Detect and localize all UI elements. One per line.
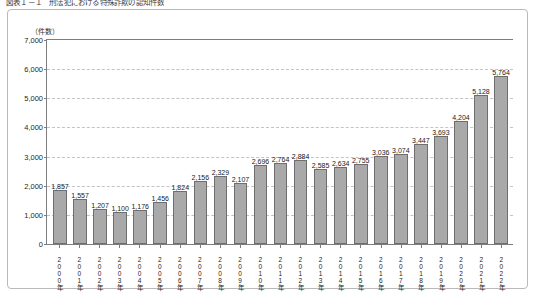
bar-series: 1,8571,5571,2071,1001,1761,4561,8242,156… bbox=[47, 40, 513, 244]
bar[interactable]: 1,857 bbox=[53, 190, 67, 244]
x-axis-tickmark bbox=[350, 245, 370, 249]
bar-slot: 1,207 bbox=[90, 40, 110, 244]
bar[interactable]: 2,107 bbox=[234, 183, 248, 244]
bar[interactable]: 1,207 bbox=[93, 209, 107, 244]
x-axis-tick-label: 2022年 bbox=[497, 250, 504, 296]
bar-value-label: 1,176 bbox=[131, 203, 149, 210]
bar[interactable]: 2,755 bbox=[354, 164, 368, 244]
bar[interactable]: 2,156 bbox=[194, 181, 208, 244]
y-axis-tick-label: 3,000 bbox=[24, 152, 43, 161]
bar-value-label: 2,585 bbox=[312, 162, 330, 169]
x-axis-label-slot: 2007年 bbox=[190, 250, 210, 296]
bar[interactable]: 2,634 bbox=[334, 167, 348, 244]
x-axis-label-slot: 2015年 bbox=[350, 250, 370, 296]
x-axis-tickmarks bbox=[46, 245, 513, 249]
x-axis-label-slot: 2011年 bbox=[270, 250, 290, 296]
bar-slot: 5,128 bbox=[471, 40, 491, 244]
bar-slot: 2,696 bbox=[250, 40, 270, 244]
bar-value-label: 1,207 bbox=[91, 202, 109, 209]
x-axis-tick-label: 2007年 bbox=[196, 250, 203, 296]
x-axis-tick-label: 2020年 bbox=[457, 250, 464, 296]
x-axis-tickmark bbox=[391, 245, 411, 249]
bar-slot: 2,755 bbox=[351, 40, 371, 244]
x-axis-tickmark bbox=[230, 245, 250, 249]
bar[interactable]: 5,128 bbox=[474, 95, 488, 244]
bar[interactable]: 1,100 bbox=[113, 212, 127, 244]
x-axis-label-slot: 2014年 bbox=[330, 250, 350, 296]
bar-value-label: 3,693 bbox=[432, 129, 450, 136]
bar-slot: 2,884 bbox=[291, 40, 311, 244]
x-axis-label-slot: 2012年 bbox=[290, 250, 310, 296]
bar[interactable]: 2,329 bbox=[214, 176, 228, 244]
x-axis-tick-label: 2003年 bbox=[116, 250, 123, 296]
x-axis-tick-label: 2019年 bbox=[437, 250, 444, 296]
x-axis-tickmark bbox=[250, 245, 270, 249]
bar[interactable]: 1,557 bbox=[73, 199, 87, 244]
bar-value-label: 3,036 bbox=[372, 149, 390, 156]
x-axis-label-slot: 2017年 bbox=[391, 250, 411, 296]
x-axis-label-slot: 2013年 bbox=[310, 250, 330, 296]
bar[interactable]: 1,824 bbox=[173, 191, 187, 244]
x-axis-tickmark bbox=[109, 245, 129, 249]
bar-slot: 2,585 bbox=[311, 40, 331, 244]
x-axis-tickmark bbox=[290, 245, 310, 249]
x-axis-label-slot: 2003年 bbox=[109, 250, 129, 296]
bar[interactable]: 3,036 bbox=[374, 156, 388, 244]
x-axis-label-slot: 2018年 bbox=[411, 250, 431, 296]
bar[interactable]: 2,585 bbox=[314, 169, 328, 244]
bar-value-label: 1,824 bbox=[172, 184, 190, 191]
bar[interactable]: 2,696 bbox=[254, 165, 268, 244]
x-axis-tick-label: 2011年 bbox=[276, 250, 283, 296]
x-axis-tickmark bbox=[330, 245, 350, 249]
x-axis-tickmark bbox=[149, 245, 169, 249]
bar-slot: 3,693 bbox=[431, 40, 451, 244]
bar[interactable]: 4,204 bbox=[454, 121, 468, 244]
bar[interactable]: 1,176 bbox=[133, 210, 147, 244]
x-axis-tickmark bbox=[190, 245, 210, 249]
x-axis-tick-label: 2021年 bbox=[477, 250, 484, 296]
bar[interactable]: 3,447 bbox=[414, 144, 428, 244]
y-axis-tick-label: 2,000 bbox=[24, 181, 43, 190]
bar-slot: 1,456 bbox=[150, 40, 170, 244]
bar[interactable]: 2,764 bbox=[274, 163, 288, 244]
x-axis-tick-label: 2000年 bbox=[55, 250, 62, 296]
bar-value-label: 2,696 bbox=[252, 158, 270, 165]
bar[interactable]: 5,764 bbox=[494, 76, 508, 244]
x-axis-label-slot: 2000年 bbox=[49, 250, 69, 296]
bar-value-label: 5,128 bbox=[472, 88, 490, 95]
x-axis-label-slot: 2006年 bbox=[170, 250, 190, 296]
bar[interactable]: 3,693 bbox=[434, 136, 448, 244]
bar-slot: 2,764 bbox=[271, 40, 291, 244]
bar[interactable]: 1,456 bbox=[153, 202, 167, 244]
x-axis-tickmark bbox=[431, 245, 451, 249]
x-axis-label-slot: 2020年 bbox=[451, 250, 471, 296]
bar-slot: 2,156 bbox=[190, 40, 210, 244]
x-axis-tickmark bbox=[310, 245, 330, 249]
x-axis-tick-label: 2009年 bbox=[236, 250, 243, 296]
x-axis-tickmark bbox=[270, 245, 290, 249]
bar-slot: 5,764 bbox=[491, 40, 511, 244]
x-axis-tick-label: 2015年 bbox=[357, 250, 364, 296]
plot-area: 01,0002,0003,0004,0005,0006,0007,000 1,8… bbox=[46, 39, 513, 245]
x-axis-tickmark bbox=[471, 245, 491, 249]
y-axis-tick-label: 4,000 bbox=[24, 123, 43, 132]
bar[interactable]: 3,074 bbox=[394, 154, 408, 244]
bar-value-label: 3,447 bbox=[412, 137, 430, 144]
x-axis-tickmark bbox=[89, 245, 109, 249]
y-axis-tick-label: 7,000 bbox=[24, 36, 43, 45]
bar-value-label: 2,107 bbox=[232, 176, 250, 183]
x-axis-tickmark bbox=[49, 245, 69, 249]
y-axis-tick-label: 0 bbox=[39, 240, 43, 249]
y-axis-tick-label: 1,000 bbox=[24, 210, 43, 219]
bar-slot: 1,176 bbox=[130, 40, 150, 244]
x-axis-label-slot: 2016年 bbox=[371, 250, 391, 296]
x-axis-tick-label: 2006年 bbox=[176, 250, 183, 296]
bar-slot: 3,447 bbox=[411, 40, 431, 244]
bar-slot: 2,634 bbox=[331, 40, 351, 244]
x-axis-label-slot: 2008年 bbox=[210, 250, 230, 296]
bar-slot: 1,857 bbox=[50, 40, 70, 244]
bar-value-label: 1,857 bbox=[51, 183, 69, 190]
figure-frame: （件数） 01,0002,0003,0004,0005,0006,0007,00… bbox=[7, 9, 528, 289]
x-axis-tickmark bbox=[170, 245, 190, 249]
bar[interactable]: 2,884 bbox=[294, 160, 308, 244]
